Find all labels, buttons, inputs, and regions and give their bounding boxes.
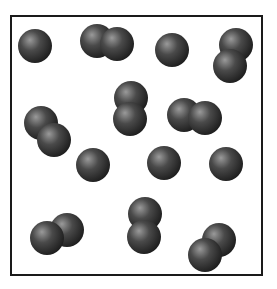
single-atom	[155, 33, 189, 67]
atom-sphere	[30, 221, 64, 255]
atom-sphere	[155, 33, 189, 67]
atom-sphere	[188, 101, 222, 135]
atom-sphere	[127, 220, 161, 254]
single-atom	[209, 147, 243, 181]
atom-sphere	[37, 123, 71, 157]
single-atom	[147, 146, 181, 180]
atom-sphere	[76, 148, 110, 182]
atom-sphere	[188, 238, 222, 272]
particle-diagram	[0, 0, 277, 289]
diatomic-molecule	[127, 197, 162, 254]
atom-sphere	[209, 147, 243, 181]
diatomic-molecule	[113, 81, 148, 136]
atom-sphere	[18, 29, 52, 63]
single-atom	[76, 148, 110, 182]
atom-sphere	[100, 27, 134, 61]
diatomic-molecule	[80, 24, 134, 61]
atom-sphere	[147, 146, 181, 180]
single-atom	[18, 29, 52, 63]
atom-sphere	[213, 49, 247, 83]
atom-sphere	[113, 102, 147, 136]
diatomic-molecule	[167, 98, 222, 135]
